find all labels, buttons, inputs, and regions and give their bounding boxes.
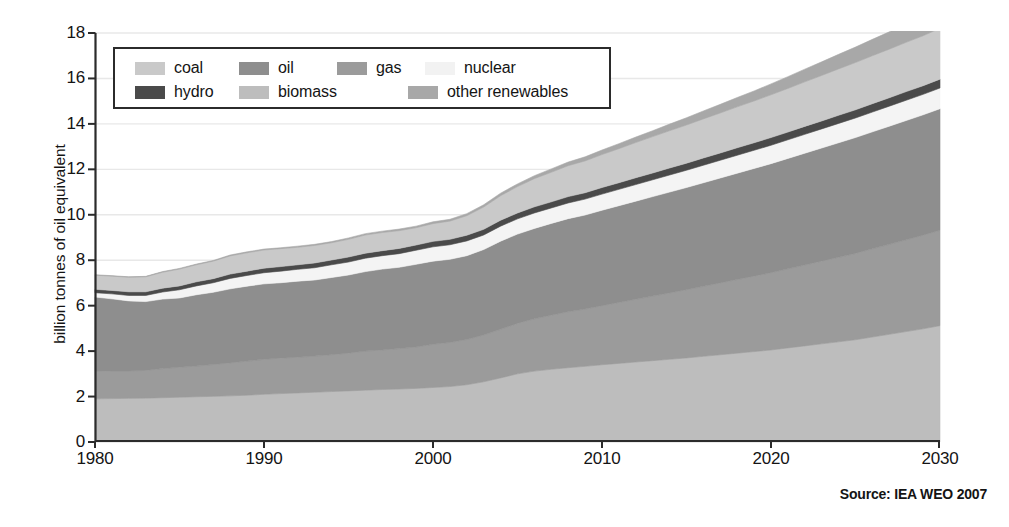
- x-tick-2000: 2000: [388, 449, 478, 469]
- x-tick-2030: 2030: [895, 449, 985, 469]
- legend-label: biomass: [278, 83, 337, 101]
- y-tick-14: 14: [39, 114, 85, 134]
- legend-label: coal: [174, 59, 203, 77]
- source-note: Source: IEA WEO 2007: [840, 486, 987, 502]
- y-tick-8: 8: [39, 250, 85, 270]
- x-tick-1980: 1980: [50, 449, 140, 469]
- legend-label: gas: [376, 59, 402, 77]
- y-tick-10: 10: [39, 205, 85, 225]
- y-tick-6: 6: [39, 296, 85, 316]
- y-tick-16: 16: [39, 68, 85, 88]
- legend-label: hydro: [174, 83, 214, 101]
- x-tick-2010: 2010: [557, 449, 647, 469]
- legend-swatch-nuclear-icon: [425, 62, 455, 75]
- x-tick-1990: 1990: [219, 449, 309, 469]
- legend-swatch-biomass-icon: [239, 86, 269, 99]
- legend-row-secondary: hydrobiomassother renewables: [125, 80, 599, 104]
- legend-swatch-coal-icon: [135, 62, 165, 75]
- energy-outlook-area-chart: billion tonnes of oil equivalent 0246810…: [0, 0, 1009, 527]
- legend-entry-nuclear: nuclear: [425, 56, 516, 80]
- x-tick-2020: 2020: [726, 449, 816, 469]
- legend-entry-coal: coal: [135, 56, 203, 80]
- legend-label: oil: [278, 59, 294, 77]
- y-axis-tick-labels: 024681012141618: [30, 33, 85, 442]
- legend-entry-gas: gas: [337, 56, 402, 80]
- legend-swatch-hydro-icon: [135, 86, 165, 99]
- x-axis-tick-labels: 198019902000201020202030: [95, 449, 940, 477]
- y-tick-2: 2: [39, 387, 85, 407]
- legend-label: other renewables: [447, 83, 568, 101]
- legend-entry-hydro: hydro: [135, 80, 214, 104]
- legend-row-primary: coaloilgasnuclear: [125, 56, 599, 80]
- y-tick-4: 4: [39, 341, 85, 361]
- legend-entry-other-renewables: other renewables: [408, 80, 568, 104]
- legend-entry-oil: oil: [239, 56, 294, 80]
- y-tick-12: 12: [39, 159, 85, 179]
- legend-label: nuclear: [464, 59, 516, 77]
- y-tick-18: 18: [39, 23, 85, 43]
- chart-legend: coaloilgasnuclear hydrobiomassother rene…: [113, 47, 611, 109]
- legend-swatch-other-renewables-icon: [408, 86, 438, 99]
- legend-swatch-oil-icon: [239, 62, 269, 75]
- legend-entry-biomass: biomass: [239, 80, 337, 104]
- legend-swatch-gas-icon: [337, 62, 367, 75]
